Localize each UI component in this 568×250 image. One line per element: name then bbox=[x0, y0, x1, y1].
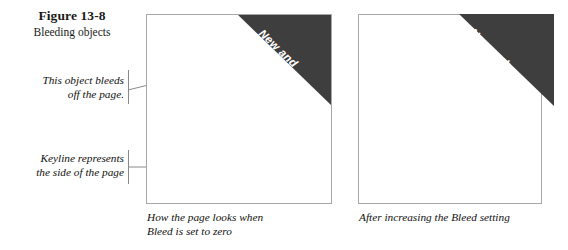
callout-keyline-line-1: Keyline represents bbox=[8, 152, 124, 166]
callout-object-bleeds: This object bleeds off the page. bbox=[8, 74, 124, 101]
figure-number: Figure 13-8 bbox=[6, 8, 138, 23]
page-box-bleed-increased bbox=[358, 14, 542, 204]
figure-subtitle: Bleeding objects bbox=[6, 25, 138, 40]
caption-bleed-zero-line-2: Bleed is set to zero bbox=[147, 224, 347, 238]
callout-object-bleeds-line-1: This object bleeds bbox=[8, 74, 124, 88]
callout-object-bleeds-line-2: off the page. bbox=[8, 88, 124, 102]
figure-13-8-illustration: Figure 13-8 Bleeding objects This object… bbox=[0, 0, 568, 250]
caption-bleed-increased-line-1: After increasing the Bleed setting bbox=[359, 210, 559, 224]
caption-bleed-zero: How the page looks when Bleed is set to … bbox=[147, 210, 347, 238]
callout-keyline-line-2: the side of the page bbox=[8, 166, 124, 180]
page-box-bleed-zero: New and Improved bbox=[146, 14, 332, 204]
caption-bleed-increased: After increasing the Bleed setting bbox=[359, 210, 559, 224]
caption-bleed-zero-line-1: How the page looks when bbox=[147, 210, 347, 224]
figure-heading: Figure 13-8 Bleeding objects bbox=[6, 8, 138, 40]
callout-keyline: Keyline represents the side of the page bbox=[8, 152, 124, 179]
